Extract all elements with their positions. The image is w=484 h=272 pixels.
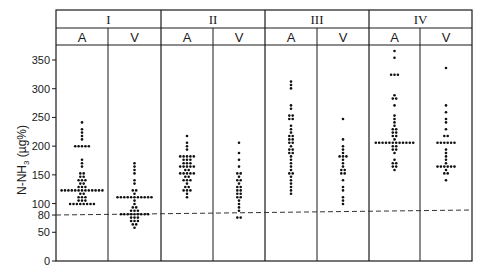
data-dot — [137, 196, 140, 199]
data-dot — [412, 142, 415, 145]
data-dot — [239, 179, 242, 182]
data-dot — [74, 189, 77, 192]
data-dot — [81, 131, 84, 134]
data-dot — [392, 131, 395, 134]
data-dot — [101, 189, 104, 192]
data-dot — [290, 108, 293, 111]
data-dot — [395, 145, 398, 148]
data-dot — [84, 186, 87, 189]
data-dot — [236, 186, 239, 189]
data-dot — [135, 223, 138, 226]
data-dot — [393, 152, 396, 155]
data-dot — [393, 114, 396, 117]
data-dot — [450, 142, 453, 145]
data-dot — [123, 196, 126, 199]
data-dot — [445, 162, 448, 165]
data-dot — [402, 142, 405, 145]
data-dot — [342, 196, 345, 199]
data-dot — [132, 189, 135, 192]
subgroup-label: A — [183, 30, 192, 45]
data-dot — [290, 159, 293, 162]
data-dot — [193, 172, 196, 175]
data-dot — [186, 159, 189, 162]
data-dot — [189, 172, 192, 175]
data-dot — [342, 148, 345, 151]
data-dot — [342, 199, 345, 202]
group-label: II — [209, 12, 218, 27]
data-dot — [143, 196, 146, 199]
data-dot — [409, 142, 412, 145]
data-dot — [186, 142, 189, 145]
data-dot — [393, 74, 396, 77]
data-dot — [445, 179, 448, 182]
data-dot — [143, 213, 146, 216]
data-dot — [116, 196, 119, 199]
data-dot — [79, 182, 82, 185]
data-dot — [393, 138, 396, 141]
data-dot — [81, 121, 84, 124]
data-dot — [132, 223, 135, 226]
data-dot — [375, 142, 378, 145]
data-dot — [342, 152, 345, 155]
data-dot — [64, 189, 67, 192]
data-dot — [290, 104, 293, 107]
data-dot — [137, 220, 140, 223]
data-dot — [130, 196, 133, 199]
data-dot — [81, 165, 84, 168]
data-dot — [342, 165, 345, 168]
data-dot — [290, 186, 293, 189]
data-dot — [398, 142, 401, 145]
y-axis-ticks: 05080100150200250300350 — [32, 54, 56, 267]
data-dot — [182, 159, 185, 162]
data-dot — [436, 165, 439, 168]
data-dot — [186, 148, 189, 151]
data-dot — [69, 203, 72, 206]
data-dot — [187, 176, 190, 179]
data-dot — [84, 199, 87, 202]
data-dot — [133, 203, 136, 206]
data-dot — [238, 199, 241, 202]
data-dot — [133, 162, 136, 165]
data-dot — [290, 84, 293, 87]
data-dot — [445, 169, 448, 172]
data-dot — [84, 179, 87, 182]
data-dot — [291, 118, 294, 121]
data-dot — [392, 148, 395, 151]
data-dot — [393, 57, 396, 60]
data-dot — [443, 135, 446, 138]
data-dot — [378, 142, 381, 145]
data-dot — [342, 162, 345, 165]
data-dot — [81, 189, 84, 192]
data-dot — [236, 216, 239, 219]
y-axis-label: N-NH3 (µg%) — [4, 100, 34, 220]
data-dot — [76, 203, 79, 206]
data-dot — [98, 189, 101, 192]
data-dot — [445, 104, 448, 107]
data-dot — [133, 210, 136, 213]
data-dot — [290, 165, 293, 168]
data-dot — [392, 135, 395, 138]
data-dot — [81, 196, 84, 199]
data-dot — [86, 203, 89, 206]
data-dot — [342, 155, 345, 158]
data-dot — [450, 165, 453, 168]
y-axis-label-unit: (µg%) — [15, 125, 29, 161]
group-label: I — [106, 12, 110, 27]
data-dot — [184, 169, 187, 172]
data-dot — [395, 128, 398, 131]
data-dot — [395, 131, 398, 134]
data-dot — [189, 155, 192, 158]
data-dot — [238, 152, 241, 155]
data-dot — [342, 145, 345, 148]
data-points — [60, 50, 456, 229]
data-dot — [82, 172, 85, 175]
data-dot — [133, 199, 136, 202]
subgroup-label: V — [442, 30, 451, 45]
data-dot — [189, 179, 192, 182]
data-dot — [343, 169, 346, 172]
data-dot — [81, 159, 84, 162]
data-dot — [381, 142, 384, 145]
y-tick-label: 350 — [32, 54, 50, 66]
data-dot — [147, 213, 150, 216]
data-dot — [445, 128, 448, 131]
